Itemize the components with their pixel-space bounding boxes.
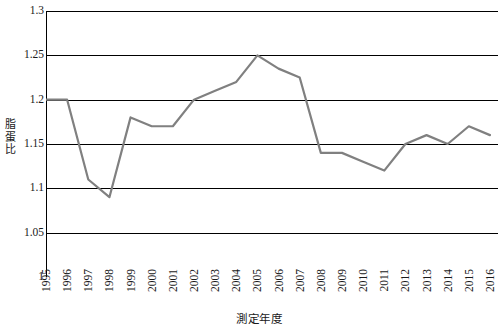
x-tick-label: 2004 bbox=[229, 269, 243, 303]
x-tick-label: 2007 bbox=[293, 269, 307, 303]
y-tick-label: 1.05 bbox=[0, 227, 44, 239]
x-tick-label: 2008 bbox=[314, 269, 328, 303]
x-tick-label: 2015 bbox=[462, 269, 476, 303]
y-tick-label: 1.3 bbox=[0, 5, 44, 17]
x-tick-label: 2001 bbox=[166, 269, 180, 303]
x-tick-label: 2010 bbox=[356, 269, 370, 303]
y-tick-label: 1 bbox=[0, 271, 44, 283]
y-tick-label: 1.15 bbox=[0, 138, 44, 150]
y-axis-tick-labels: 11.051.11.151.21.251.3 bbox=[0, 0, 44, 331]
x-tick-label: 1995 bbox=[39, 269, 53, 303]
data-series-line bbox=[46, 55, 490, 197]
plot-area bbox=[46, 11, 498, 277]
y-tick-label: 1.25 bbox=[0, 49, 44, 61]
x-tick-label: 1996 bbox=[60, 269, 74, 303]
x-tick-label: 2006 bbox=[272, 269, 286, 303]
x-tick-label: 2012 bbox=[398, 269, 412, 303]
x-axis-title: 測定年度 bbox=[0, 312, 504, 326]
x-tick-label: 2005 bbox=[250, 269, 264, 303]
line-chart: 脂蛋比 11.051.11.151.21.251.3 1995199619971… bbox=[0, 0, 504, 331]
x-tick-label: 2002 bbox=[187, 269, 201, 303]
plot-svg bbox=[46, 11, 498, 277]
x-tick-label: 2009 bbox=[335, 269, 349, 303]
x-tick-label: 1997 bbox=[81, 269, 95, 303]
x-tick-label: 2016 bbox=[483, 269, 497, 303]
x-tick-label: 2003 bbox=[208, 269, 222, 303]
x-tick-label: 2000 bbox=[145, 269, 159, 303]
x-tick-label: 1999 bbox=[124, 269, 138, 303]
y-tick-label: 1.1 bbox=[0, 182, 44, 194]
gridlines bbox=[46, 12, 498, 278]
x-axis-tick-labels: 1995199619971998199920002001200220032004… bbox=[46, 279, 498, 313]
x-tick-label: 1998 bbox=[102, 269, 116, 303]
y-tick-label: 1.2 bbox=[0, 94, 44, 106]
x-tick-label: 2011 bbox=[377, 269, 391, 303]
x-tick-label: 2014 bbox=[441, 269, 455, 303]
x-tick-label: 2013 bbox=[420, 269, 434, 303]
